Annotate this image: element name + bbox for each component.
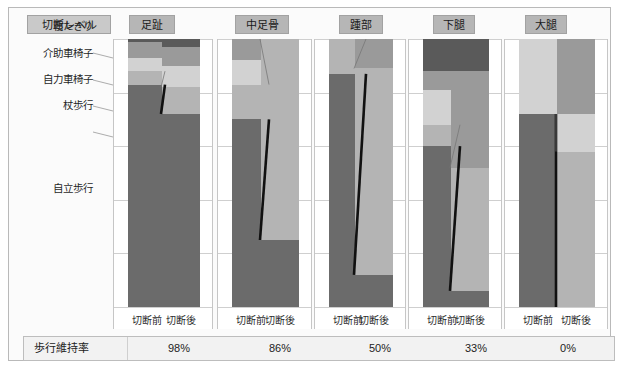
header-group-下腿: 下腿 [433, 15, 475, 34]
label-leader-line [93, 80, 113, 85]
guide-line [260, 39, 269, 85]
walk-boundary-line [450, 146, 460, 291]
label-leader-line [93, 53, 113, 58]
footer-value-下腿: 33% [426, 337, 526, 360]
footer-value-中足骨: 86% [230, 337, 330, 360]
footer-value-踵部: 50% [330, 337, 430, 360]
guide-line [354, 39, 366, 68]
walk-boundary-line [161, 85, 165, 114]
header-group-中足骨: 中足骨 [235, 15, 289, 34]
footer-value-足趾: 98% [128, 337, 230, 360]
connector-lines [27, 39, 610, 329]
chart-frame: 切断レベル 足趾 中足骨 踵部 下腿 大腿 寝たきり 介助車椅子 自力車椅子 杖… [8, 7, 611, 361]
category-label-寝たきり: 寝たきり [1, 18, 93, 33]
plot-area: 切断前切断後切断前切断後切断前切断後切断前切断後切断前切断後 [27, 39, 610, 329]
header-group-足趾: 足趾 [129, 15, 175, 34]
label-leader-line [93, 132, 113, 137]
label-leader-line [93, 106, 113, 111]
footer-row: 歩行維持率 98% 86% 50% 33% 0% [23, 336, 615, 361]
footer-value-大腿: 0% [518, 337, 618, 360]
walk-boundary-line [354, 74, 366, 275]
chart-screenshot: 切断レベル 足趾 中足骨 踵部 下腿 大腿 寝たきり 介助車椅子 自力車椅子 杖… [0, 0, 621, 370]
header-group-踵部: 踵部 [339, 15, 383, 34]
header-group-大腿: 大腿 [525, 15, 567, 34]
walk-boundary-line [260, 119, 269, 240]
